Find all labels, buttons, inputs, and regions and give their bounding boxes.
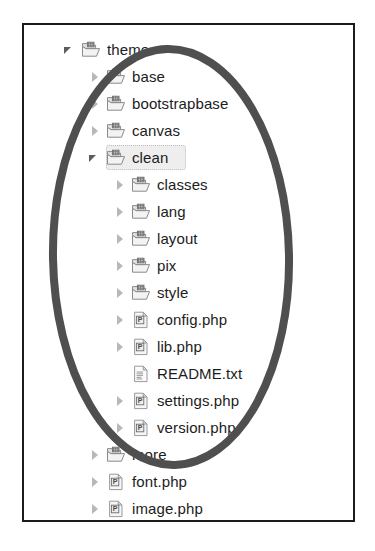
tree-item-version-php[interactable]: Pversion.php [24, 414, 353, 441]
triangle-right-icon[interactable] [88, 124, 102, 138]
tree-item-label: bootstrapbase [132, 95, 228, 112]
tree-item-label: more [132, 446, 167, 463]
triangle-right-icon[interactable] [88, 448, 102, 462]
folder-icon [131, 176, 151, 194]
triangle-right-icon[interactable] [113, 286, 127, 300]
triangle-right-icon[interactable] [113, 178, 127, 192]
php-file-icon: P [106, 500, 126, 518]
tree-item-label: lang [157, 203, 186, 220]
text-document-icon [131, 365, 151, 383]
tree-item-image-php[interactable]: Pimage.php [24, 495, 353, 522]
tree-item-label: classes [157, 176, 208, 193]
tree-item-config-php[interactable]: Pconfig.php [24, 306, 353, 333]
tree-item-label: config.php [157, 311, 227, 328]
folder-icon [106, 122, 126, 140]
php-file-icon: P [131, 338, 151, 356]
tree-item-readme-txt[interactable]: README.txt [24, 360, 353, 387]
php-file-icon: P [131, 392, 151, 410]
tree-item-label: canvas [132, 122, 180, 139]
tree-item-label: settings.php [157, 392, 239, 409]
tree-item-label: clean [132, 149, 168, 166]
tree-item-lib-php[interactable]: Plib.php [24, 333, 353, 360]
svg-text:P: P [138, 397, 143, 404]
expander-spacer [113, 367, 127, 381]
triangle-down-icon[interactable] [63, 43, 77, 57]
triangle-right-icon[interactable] [88, 475, 102, 489]
folder-icon [131, 257, 151, 275]
triangle-right-icon[interactable] [113, 340, 127, 354]
tree-item-label: lib.php [157, 338, 202, 355]
folder-icon [106, 149, 126, 167]
tree-item-theme[interactable]: theme [24, 36, 353, 63]
explorer-window-frame: themebasebootstrapbasecanvascleanclasses… [22, 23, 355, 522]
folder-icon [131, 230, 151, 248]
folder-icon [106, 95, 126, 113]
tree-item-label: font.php [132, 473, 187, 490]
triangle-right-icon[interactable] [88, 97, 102, 111]
triangle-right-icon[interactable] [88, 70, 102, 84]
folder-icon [131, 284, 151, 302]
tree-item-layout[interactable]: layout [24, 225, 353, 252]
triangle-right-icon[interactable] [113, 232, 127, 246]
php-file-icon: P [106, 473, 126, 491]
triangle-right-icon[interactable] [113, 421, 127, 435]
tree-item-pix[interactable]: pix [24, 252, 353, 279]
folder-icon [131, 176, 151, 194]
tree-item-label: theme [107, 41, 149, 58]
tree-item-clean[interactable]: clean [24, 144, 353, 171]
tree-item-label: version.php [157, 419, 236, 436]
triangle-right-icon[interactable] [88, 502, 102, 516]
folder-icon [106, 68, 126, 86]
text-document-icon [131, 365, 151, 383]
php-file-icon: P [131, 311, 151, 329]
folder-icon [81, 41, 101, 59]
tree-item-style[interactable]: style [24, 279, 353, 306]
folder-icon [81, 41, 101, 59]
folder-icon [131, 257, 151, 275]
tree-item-label: image.php [132, 500, 203, 517]
tree-item-label: style [157, 284, 188, 301]
folder-icon [106, 446, 126, 464]
svg-text:P: P [113, 505, 118, 512]
svg-text:P: P [138, 316, 143, 323]
tree-item-bootstrapbase[interactable]: bootstrapbase [24, 90, 353, 117]
tree-item-font-php[interactable]: Pfont.php [24, 468, 353, 495]
php-file-icon: P [131, 338, 151, 356]
triangle-down-icon[interactable] [88, 151, 102, 165]
tree-item-more[interactable]: more [24, 441, 353, 468]
svg-text:P: P [113, 478, 118, 485]
triangle-right-icon[interactable] [113, 259, 127, 273]
tree-item-label: README.txt [157, 365, 242, 382]
file-tree[interactable]: themebasebootstrapbasecanvascleanclasses… [24, 25, 353, 520]
tree-item-classes[interactable]: classes [24, 171, 353, 198]
folder-icon [106, 68, 126, 86]
folder-icon [131, 284, 151, 302]
folder-icon [106, 122, 126, 140]
tree-item-base[interactable]: base [24, 63, 353, 90]
php-file-icon: P [131, 419, 151, 437]
tree-item-lang[interactable]: lang [24, 198, 353, 225]
folder-icon [106, 446, 126, 464]
folder-icon [131, 230, 151, 248]
folder-icon [131, 203, 151, 221]
tree-item-canvas[interactable]: canvas [24, 117, 353, 144]
svg-text:P: P [138, 424, 143, 431]
triangle-right-icon[interactable] [113, 313, 127, 327]
tree-item-label: layout [157, 230, 198, 247]
screenshot-root: themebasebootstrapbasecanvascleanclasses… [0, 0, 375, 551]
tree-item-settings-php[interactable]: Psettings.php [24, 387, 353, 414]
php-file-icon: P [131, 419, 151, 437]
php-file-icon: P [106, 473, 126, 491]
tree-item-label: base [132, 68, 165, 85]
php-file-icon: P [106, 500, 126, 518]
svg-text:P: P [138, 343, 143, 350]
triangle-right-icon[interactable] [113, 205, 127, 219]
php-file-icon: P [131, 392, 151, 410]
folder-icon [106, 95, 126, 113]
triangle-right-icon[interactable] [113, 394, 127, 408]
folder-icon [106, 149, 126, 167]
php-file-icon: P [131, 311, 151, 329]
tree-item-label: pix [157, 257, 176, 274]
folder-icon [131, 203, 151, 221]
